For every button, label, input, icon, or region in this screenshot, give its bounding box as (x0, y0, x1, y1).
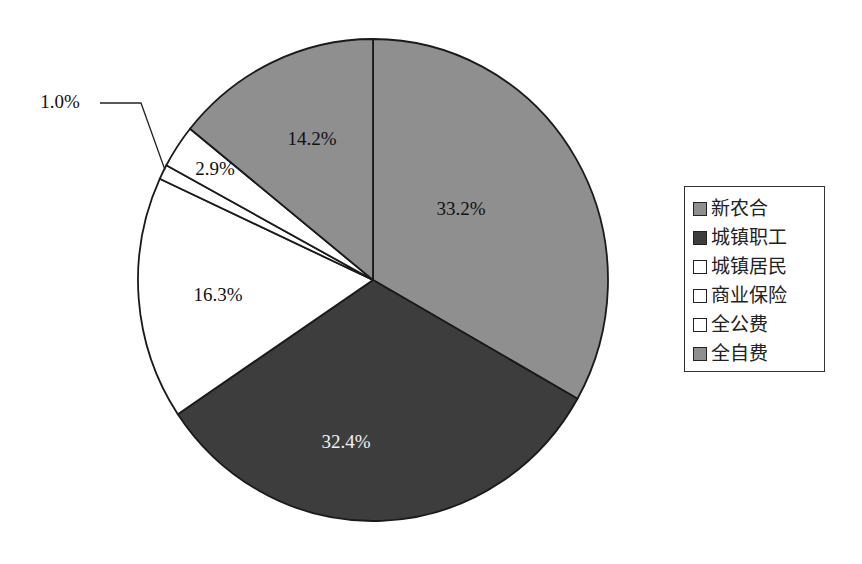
slice-value-label: 14.2% (287, 128, 336, 149)
legend-item-urban-resident: 城镇居民 (693, 252, 824, 281)
slice-value-label: 1.0% (40, 91, 80, 112)
legend-label: 全公费 (711, 315, 768, 334)
slice-value-label: 33.2% (436, 198, 485, 219)
legend-swatch (693, 231, 707, 245)
legend-swatch (693, 202, 707, 216)
legend-label: 商业保险 (711, 286, 787, 305)
legend-swatch (693, 289, 707, 303)
slice-value-label: 2.9% (195, 158, 235, 179)
pie-slices (138, 39, 608, 521)
legend-label: 城镇职工 (711, 228, 787, 247)
legend-item-full-public: 全公费 (693, 310, 824, 339)
legend-swatch (693, 260, 707, 274)
legend-label: 城镇居民 (711, 257, 787, 276)
legend-item-self-paid: 全自费 (693, 339, 824, 368)
leader-line (100, 103, 165, 170)
legend: 新农合 城镇职工 城镇居民 商业保险 全公费 全自费 (684, 186, 825, 372)
legend-item-xinnonghe: 新农合 (693, 194, 824, 223)
legend-item-commercial-insurance: 商业保险 (693, 281, 824, 310)
legend-swatch (693, 347, 707, 361)
legend-swatch (693, 318, 707, 332)
slice-value-label: 32.4% (321, 431, 370, 452)
slice-value-label: 16.3% (193, 284, 242, 305)
legend-item-urban-employee: 城镇职工 (693, 223, 824, 252)
legend-label: 新农合 (711, 199, 768, 218)
legend-label: 全自费 (711, 344, 768, 363)
